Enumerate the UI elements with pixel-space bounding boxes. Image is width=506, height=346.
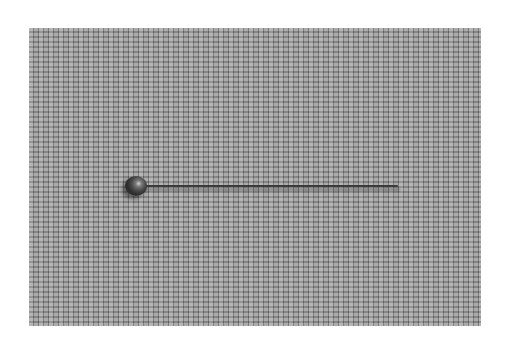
pin-shaft bbox=[140, 185, 398, 187]
pin-shadow bbox=[130, 188, 400, 191]
woven-fabric-background bbox=[29, 28, 481, 326]
pin-head bbox=[125, 176, 147, 196]
